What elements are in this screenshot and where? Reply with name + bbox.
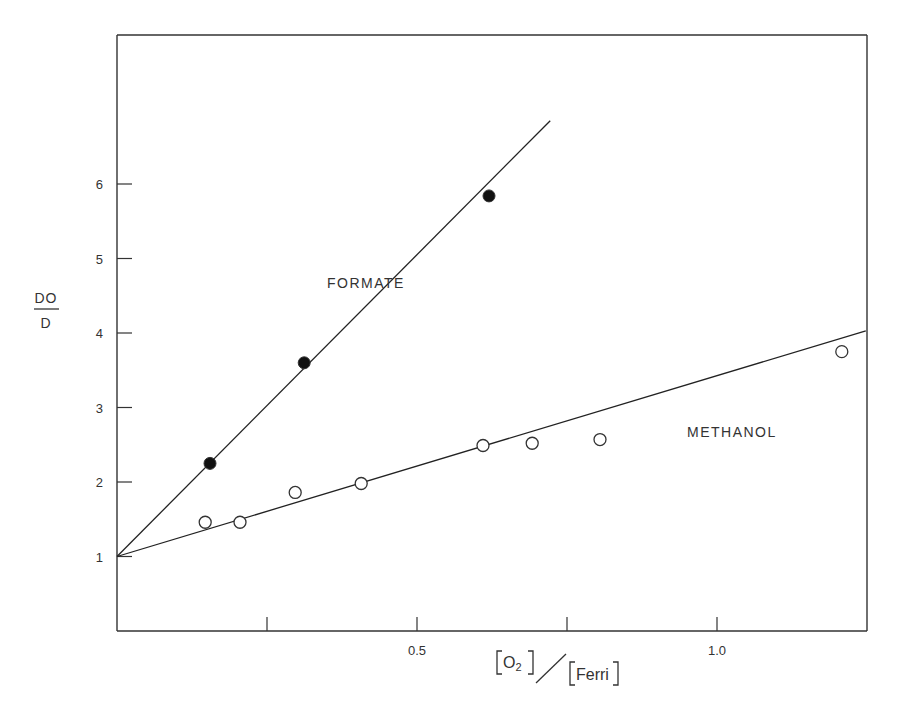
y-axis-label: DO D <box>34 290 59 331</box>
chart: 0.51.0 123456 FORMATEMETHANOL DO D O2 Fe… <box>0 0 915 721</box>
methanol-point <box>526 437 538 449</box>
series-labels: FORMATEMETHANOL <box>327 275 777 440</box>
bracket-open-1 <box>497 651 502 674</box>
y-label-numerator: DO <box>35 290 58 306</box>
data-points <box>199 190 848 528</box>
formate-point <box>483 190 495 202</box>
y-tick-label: 3 <box>96 401 103 416</box>
methanol-series-label: METHANOL <box>687 424 777 440</box>
methanol-point <box>477 439 489 451</box>
methanol-point <box>355 477 367 489</box>
x-axis-label: O2 Ferri <box>497 651 618 685</box>
formate-point <box>204 457 216 469</box>
x-label-num-species: O2 <box>503 654 522 673</box>
plot-frame <box>117 35 867 631</box>
methanol-point <box>199 516 211 528</box>
y-tick-label: 4 <box>96 326 103 341</box>
formate-point <box>298 357 310 369</box>
methanol-point <box>289 486 301 498</box>
y-tick-label: 1 <box>96 550 103 565</box>
bracket-close-1 <box>528 651 533 674</box>
methanol-point <box>836 346 848 358</box>
y-tick-label: 6 <box>96 177 103 192</box>
methanol-point <box>234 516 246 528</box>
formate-series-label: FORMATE <box>327 275 405 291</box>
y-label-denominator: D <box>40 315 51 331</box>
y-tick-label: 5 <box>96 252 103 267</box>
y-ticks: 123456 <box>96 177 132 565</box>
x-label-slash <box>536 654 566 683</box>
bracket-close-2 <box>613 662 618 685</box>
y-tick-label: 2 <box>96 475 103 490</box>
bracket-open-2 <box>570 662 575 685</box>
methanol-point <box>594 434 606 446</box>
x-label-den-species: Ferri <box>576 666 609 683</box>
x-tick-label: 1.0 <box>708 643 726 658</box>
fit-lines <box>117 121 866 557</box>
x-tick-label: 0.5 <box>408 643 426 658</box>
